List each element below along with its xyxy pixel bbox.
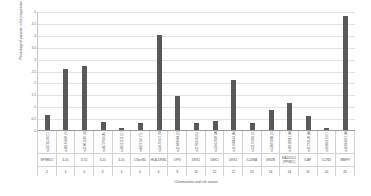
bar-cell bbox=[299, 12, 318, 130]
chromosome-label: 20 bbox=[336, 167, 354, 176]
bar-cell bbox=[206, 12, 225, 130]
chromosome-label: 14 bbox=[280, 167, 298, 176]
variant-label: rs13192881 (C) bbox=[251, 131, 255, 152]
variant-label: rs11688684 (C) bbox=[176, 131, 180, 152]
bar bbox=[231, 80, 236, 130]
gene-label: IL15 bbox=[57, 154, 75, 167]
y-tick-label: 2 bbox=[24, 81, 36, 85]
y-tick-label: 0 bbox=[24, 129, 36, 133]
variant-cell: rs10110842 (A) bbox=[280, 131, 298, 154]
gene-label: CSorf30 bbox=[131, 154, 149, 167]
variant-label: rs1196828 (G) bbox=[195, 133, 199, 153]
gene-label: DKK1 bbox=[224, 154, 242, 167]
y-axis-tick-labels: 00.511.522.533.544.55 bbox=[24, 12, 36, 131]
variant-label: rs11160433 (A) bbox=[232, 132, 236, 153]
plot-area bbox=[37, 12, 355, 131]
gene-label: GRZB bbox=[262, 154, 280, 167]
gene-label: OPG bbox=[168, 154, 186, 167]
variant-label: rs10161849 (G) bbox=[64, 131, 68, 152]
chart-figure: Percentage of variance in the progressio… bbox=[0, 0, 371, 196]
bar bbox=[250, 123, 255, 130]
variant-cell: rs13412849 (A) bbox=[206, 131, 224, 154]
bar bbox=[101, 122, 106, 130]
chromosome-label: 2 bbox=[38, 167, 56, 176]
bar bbox=[175, 96, 180, 130]
y-tick-label: 4.5 bbox=[24, 22, 36, 26]
chromosome-label: 12 bbox=[224, 167, 242, 176]
bar bbox=[82, 66, 87, 130]
bar-cell bbox=[75, 12, 94, 130]
x-axis-column: rs1106613 (C)CCND20 bbox=[318, 131, 337, 176]
bar-series bbox=[38, 12, 355, 130]
y-tick-label: 3 bbox=[24, 58, 36, 62]
gene-label: RADX1L1 (PPM1L) bbox=[280, 154, 298, 167]
variant-cell: rs13091840 (G) bbox=[262, 131, 280, 154]
variant-cell: rs1196828 (G) bbox=[187, 131, 205, 154]
variant-label: rs13412849 (A) bbox=[214, 131, 218, 152]
variant-label: rs13192471 (Major Europe) bbox=[158, 131, 162, 152]
variant-cell: rs11793120 (A) bbox=[299, 131, 317, 154]
chromosome-label: 4 bbox=[94, 167, 112, 176]
x-axis-column: rs13192471 (Major Europe)HLA-DRB16 bbox=[150, 131, 169, 176]
variant-cell: rs11801146 (G) bbox=[75, 131, 93, 154]
x-axis-column: rs4821167 (T)CSorf306 bbox=[131, 131, 150, 176]
chromosome-label: 6 bbox=[150, 167, 168, 176]
chromosome-label: 13 bbox=[243, 167, 261, 176]
chromosome-label: 4 bbox=[75, 167, 93, 176]
gene-label: CCND bbox=[318, 154, 336, 167]
bar-cell bbox=[262, 12, 281, 130]
gene-label: DKK1 bbox=[206, 154, 224, 167]
bar-cell bbox=[224, 12, 243, 130]
chromosome-label: 8 bbox=[168, 167, 186, 176]
gene-label: IL15 bbox=[113, 154, 131, 167]
variant-cell: rs13192881 (C) bbox=[243, 131, 261, 154]
variant-label: rs13091840 (G) bbox=[270, 131, 274, 152]
bar-cell bbox=[94, 12, 113, 130]
gene-label: SPRED2 bbox=[38, 154, 56, 167]
x-axis-column: rs10211111 (C)IL154 bbox=[113, 131, 132, 176]
y-tick-label: 1 bbox=[24, 105, 36, 109]
chromosome-label: 12 bbox=[206, 167, 224, 176]
variant-label: rs1106613 (C) bbox=[325, 133, 329, 153]
x-axis-column: rs13412849 (A)DKK112 bbox=[206, 131, 225, 176]
bar bbox=[138, 123, 143, 130]
x-axis-column: rs11793120 (A)ILAP16 bbox=[299, 131, 318, 176]
variant-label: rs10110842 (A) bbox=[288, 131, 292, 152]
bar bbox=[119, 128, 124, 130]
x-axis-column: rs1077968 (A)IL154 bbox=[94, 131, 113, 176]
gene-label: IL15 bbox=[75, 154, 93, 167]
chromosome-label: 14 bbox=[262, 167, 280, 176]
variant-cell: rs11688684 (C) bbox=[168, 131, 186, 154]
x-axis-title: Chromosome and risk variant bbox=[37, 180, 355, 185]
bar-cell bbox=[243, 12, 262, 130]
x-axis-column: rs13192881 (C)IL20RA13 bbox=[243, 131, 262, 176]
bar bbox=[324, 128, 329, 130]
bar-cell bbox=[336, 12, 355, 130]
x-axis-column: rs13091840 (G)GRZB14 bbox=[262, 131, 281, 176]
bar-cell bbox=[38, 12, 57, 130]
bar bbox=[306, 116, 311, 130]
y-tick-label: 1.5 bbox=[24, 93, 36, 97]
chromosome-label: 16 bbox=[299, 167, 317, 176]
bar bbox=[194, 123, 199, 130]
bar bbox=[343, 16, 348, 130]
variant-label: rs1876518 (C) bbox=[46, 133, 50, 153]
x-axis-column: rs11033822 (A)MMP920 bbox=[336, 131, 355, 176]
x-axis-column: rs11688684 (C)OPG8 bbox=[168, 131, 187, 176]
gene-label: IL15 bbox=[94, 154, 112, 167]
bar-cell bbox=[57, 12, 76, 130]
bar bbox=[287, 103, 292, 130]
variant-cell: rs1077968 (A) bbox=[94, 131, 112, 154]
variant-cell: rs10161849 (G) bbox=[57, 131, 75, 154]
bar-cell bbox=[131, 12, 150, 130]
chromosome-label: 6 bbox=[131, 167, 149, 176]
variant-cell: rs13192471 (Major Europe) bbox=[150, 131, 168, 154]
bar-cell bbox=[150, 12, 169, 130]
variant-label: rs4821167 (T) bbox=[139, 133, 143, 152]
y-tick-label: 2.5 bbox=[24, 70, 36, 74]
y-tick-label: 5 bbox=[24, 10, 36, 14]
bar bbox=[269, 110, 274, 130]
bar bbox=[213, 121, 218, 130]
variant-cell: rs1106613 (C) bbox=[318, 131, 336, 154]
bar bbox=[157, 35, 162, 130]
